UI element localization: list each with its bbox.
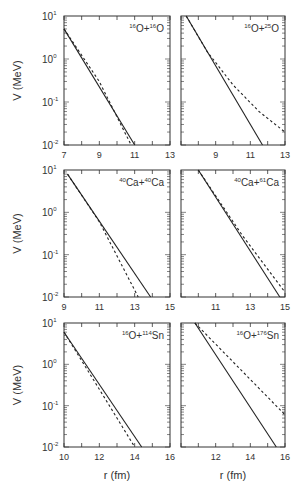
x-tick-label: 13: [130, 302, 140, 312]
panel-2: 9111316O+25O: [181, 16, 290, 160]
x-tick-label: 14: [245, 452, 255, 462]
y-tick-label: 10-2: [42, 441, 59, 453]
figure: 79111316O+16O10110010-110-2V (MeV)911131…: [0, 0, 300, 496]
x-tick-label: 12: [94, 452, 104, 462]
y-tick-label: 10-2: [42, 139, 59, 151]
x-tick-label: 11: [211, 302, 220, 312]
x-tick-label: 7: [61, 150, 66, 160]
plot-frame: [181, 170, 285, 297]
reaction-label: 16O+176Sn: [236, 330, 279, 341]
panel-1: 79111316O+16O10110010-110-2V (MeV): [11, 10, 175, 160]
y-axis-label: V (MeV): [11, 213, 23, 253]
x-tick-label: 9: [213, 150, 218, 160]
y-tick-label: 10-1: [42, 249, 59, 261]
y-axis-label: V (MeV): [11, 365, 23, 405]
y-axis-label: V (MeV): [11, 60, 23, 100]
dashed-curve: [64, 332, 135, 447]
reaction-label: 16O+114Sn: [122, 330, 164, 341]
x-tick-label: 15: [280, 302, 290, 312]
plot-frame: [181, 16, 285, 145]
x-tick-label: 9: [61, 302, 66, 312]
x-tick-label: 13: [165, 150, 175, 160]
x-tick-label: 12: [211, 452, 221, 462]
x-tick-label: 14: [130, 452, 140, 462]
reaction-label: 16O+16O: [129, 23, 164, 34]
x-tick-label: 11: [130, 150, 139, 160]
plot-frame: [64, 323, 170, 447]
x-tick-label: 16: [165, 452, 175, 462]
x-tick-label: 16: [280, 452, 290, 462]
x-tick-label: 13: [280, 150, 290, 160]
y-tick-label: 10-1: [42, 400, 59, 412]
reaction-label: 40Ca+40Ca: [119, 177, 164, 188]
panel-5: 1012141616O+114Sn10110010-110-2V (MeV)r …: [11, 317, 175, 481]
solid-curve: [198, 170, 279, 297]
y-tick-label: 10-2: [42, 291, 59, 303]
plot-frame: [64, 16, 170, 145]
dashed-curve: [186, 16, 285, 132]
dashed-curve: [68, 174, 139, 297]
solid-curve: [64, 29, 135, 145]
y-tick-label: 100: [42, 358, 57, 370]
x-axis-label: r (fm): [104, 469, 130, 481]
x-tick-label: 9: [97, 150, 102, 160]
y-tick-label: 100: [42, 206, 57, 218]
panel-3: 911131540Ca+40Ca10110010-110-2V (MeV): [11, 164, 175, 312]
x-tick-label: 10: [59, 452, 69, 462]
y-tick-label: 101: [42, 164, 57, 176]
panel-6: 12141616O+176Snr (fm): [181, 323, 290, 481]
solid-curve: [195, 323, 276, 447]
y-tick-label: 101: [42, 317, 57, 329]
y-tick-label: 101: [42, 10, 57, 22]
x-tick-label: 13: [245, 302, 255, 312]
x-tick-label: 15: [165, 302, 175, 312]
panel-4: 11131540Ca+61Ca: [181, 170, 290, 312]
dashed-curve: [198, 170, 285, 292]
reaction-label: 16O+25O: [244, 23, 279, 34]
y-tick-label: 100: [42, 53, 57, 65]
x-tick-label: 11: [95, 302, 104, 312]
reaction-label: 40Ca+61Ca: [234, 177, 279, 188]
plot-frame: [64, 170, 170, 297]
plot-frame: [181, 323, 285, 447]
solid-curve: [64, 332, 142, 447]
y-tick-label: 10-1: [42, 96, 59, 108]
x-axis-label: r (fm): [220, 469, 246, 481]
x-tick-label: 11: [246, 150, 255, 160]
